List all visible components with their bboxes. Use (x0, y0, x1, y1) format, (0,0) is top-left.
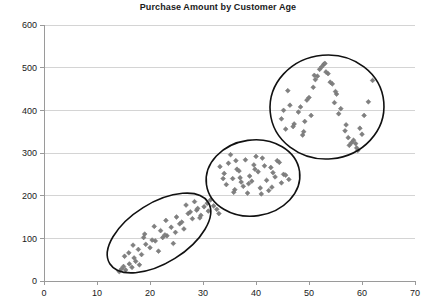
data-point (156, 249, 161, 254)
data-point (122, 254, 127, 259)
data-point (184, 203, 189, 208)
data-point (222, 171, 227, 176)
data-point (221, 176, 226, 181)
x-tick-label: 0 (41, 288, 46, 298)
data-point (264, 178, 269, 183)
data-point (288, 103, 293, 108)
data-point (366, 99, 371, 104)
data-point (214, 207, 219, 212)
data-point (143, 242, 148, 247)
data-point (336, 111, 341, 116)
data-point (362, 113, 367, 118)
data-point (233, 158, 238, 163)
data-point (279, 116, 284, 121)
data-point (262, 163, 267, 168)
plot-canvas: 0100200300400500600010203040506070 (0, 0, 436, 308)
data-point (202, 204, 207, 209)
y-tick-label: 500 (22, 63, 37, 73)
data-point (136, 247, 141, 252)
data-point (344, 122, 349, 127)
y-tick-label: 600 (22, 20, 37, 30)
data-point (309, 113, 314, 118)
data-point (332, 100, 337, 105)
data-point (218, 164, 223, 169)
data-point (164, 218, 169, 223)
x-tick-label: 20 (145, 288, 155, 298)
data-point (360, 132, 365, 137)
scatter-chart: Purchase Amount by Customer Age 01002003… (0, 0, 436, 308)
y-tick-label: 200 (22, 191, 37, 201)
data-point (211, 204, 216, 209)
data-point (251, 163, 256, 168)
data-point (243, 157, 248, 162)
data-point (302, 119, 307, 124)
data-point (192, 199, 197, 204)
data-point (190, 216, 195, 221)
y-tick-label: 0 (32, 276, 37, 286)
data-point (285, 88, 290, 93)
data-point (239, 180, 244, 185)
data-point (126, 250, 131, 255)
data-point (217, 211, 222, 216)
data-point (266, 188, 271, 193)
data-point (260, 156, 265, 161)
data-point (238, 175, 243, 180)
x-tick-label: 30 (198, 288, 208, 298)
data-point (224, 182, 229, 187)
data-point (346, 135, 351, 140)
data-point (279, 180, 284, 185)
data-point (230, 176, 235, 181)
data-point (281, 108, 286, 113)
data-point (270, 185, 275, 190)
data-point (370, 78, 375, 83)
data-point (357, 126, 362, 131)
data-point (268, 165, 273, 170)
data-point (139, 252, 144, 257)
data-point (173, 230, 178, 235)
data-point (226, 161, 231, 166)
data-point (283, 127, 288, 132)
x-tick-label: 40 (251, 288, 261, 298)
data-point (148, 245, 153, 250)
data-point (241, 184, 246, 189)
data-point (137, 262, 142, 267)
data-point (131, 243, 136, 248)
data-point (273, 174, 278, 179)
data-point (182, 227, 187, 232)
y-tick-label: 300 (22, 148, 37, 158)
data-point (171, 241, 176, 246)
data-point (343, 128, 348, 133)
data-point (158, 228, 163, 233)
x-tick-label: 70 (410, 288, 420, 298)
data-points-group (117, 61, 375, 274)
y-tick-label: 400 (22, 106, 37, 116)
x-tick-label: 50 (304, 288, 314, 298)
data-point (286, 177, 291, 182)
data-point (258, 186, 263, 191)
data-point (174, 215, 179, 220)
data-point (245, 191, 250, 196)
cluster-ellipse-annotation (94, 177, 224, 289)
data-point (152, 224, 157, 229)
data-point (311, 85, 316, 90)
data-point (247, 174, 252, 179)
data-point (271, 170, 276, 175)
data-point (254, 154, 259, 159)
x-tick-label: 60 (357, 288, 367, 298)
data-point (169, 225, 174, 230)
data-point (298, 105, 303, 110)
x-tick-label: 10 (92, 288, 102, 298)
y-tick-label: 100 (22, 234, 37, 244)
